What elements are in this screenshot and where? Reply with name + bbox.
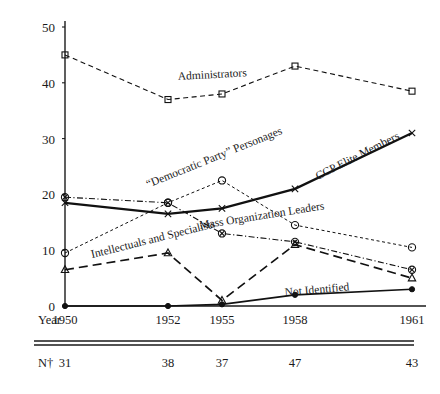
- n-value: 47: [289, 356, 302, 370]
- data-point-marker-filled-circle: [165, 303, 170, 308]
- y-axis-ticks: 01020304050: [42, 20, 65, 314]
- n-value: 31: [59, 356, 72, 370]
- y-tick-label: 20: [42, 187, 55, 202]
- series-label-3: CCP Elite Members: [313, 129, 401, 182]
- n-value: 43: [406, 356, 419, 370]
- chart-figure: 01020304050 Administrators“Democratic Pa…: [0, 0, 440, 394]
- data-point-marker-open-square: [409, 88, 415, 94]
- series-lines-group: [65, 55, 412, 306]
- y-tick-label: 0: [49, 299, 56, 314]
- x-axis-tick-labels: 19501952195519581961: [53, 313, 425, 327]
- year-row-label: Year: [38, 313, 62, 327]
- line-chart-svg: 01020304050 Administrators“Democratic Pa…: [0, 0, 440, 394]
- data-point-marker-circled-x: [408, 266, 415, 273]
- series-line-5: [65, 289, 412, 306]
- series-label-4: Intellectuals and Specialists: [90, 217, 218, 261]
- y-tick-label: 50: [42, 20, 55, 35]
- n-row-values: 3138374743: [59, 356, 419, 370]
- n-value: 38: [162, 356, 175, 370]
- data-point-marker-open-circle: [218, 177, 225, 184]
- series-label-1: “Democratic Party” Personages: [144, 124, 284, 191]
- data-point-marker-open-triangle: [408, 274, 415, 281]
- x-tick-label-1952: 1952: [156, 313, 181, 327]
- series-label-5: Not Identified: [284, 280, 350, 298]
- x-tick-label-1958: 1958: [283, 313, 308, 327]
- series-label-0: Administrators: [177, 66, 247, 82]
- data-point-marker-circled-x: [218, 230, 225, 237]
- n-row-header: N†: [38, 356, 53, 370]
- series-markers-group: [61, 52, 415, 309]
- data-point-marker-filled-circle: [219, 302, 224, 307]
- y-tick-label: 30: [42, 132, 55, 147]
- data-point-marker-filled-circle: [62, 303, 67, 308]
- x-tick-label-1961: 1961: [400, 313, 425, 327]
- n-value: 37: [216, 356, 229, 370]
- x-tick-label-1955: 1955: [210, 313, 235, 327]
- y-tick-label: 40: [42, 76, 55, 91]
- series-inline-labels: Administrators“Democratic Party” Persona…: [90, 66, 402, 298]
- y-tick-label: 10: [42, 243, 55, 258]
- data-point-marker-filled-circle: [409, 287, 414, 292]
- chart-axes: [65, 21, 426, 306]
